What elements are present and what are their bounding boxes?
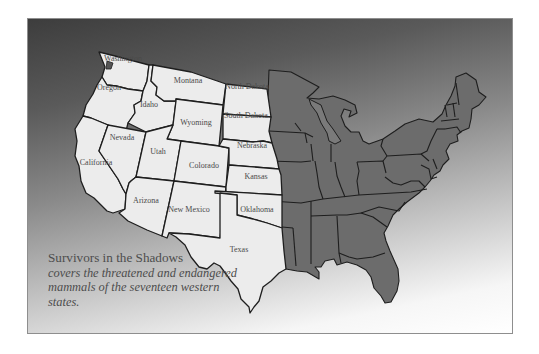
label-new-mexico: New Mexico — [168, 205, 210, 214]
label-colorado: Colorado — [189, 161, 219, 170]
label-idaho: Idaho — [140, 100, 158, 109]
label-washington: Washington — [104, 54, 142, 63]
label-oregon: Oregon — [97, 83, 121, 92]
map-caption: Survivors in the Shadows covers the thre… — [48, 251, 248, 309]
label-oklahoma: Oklahoma — [240, 205, 274, 214]
label-kansas: Kansas — [244, 172, 267, 181]
map-frame: Washington Oregon California Idaho Nevad… — [27, 18, 513, 334]
caption-body: covers the threatened and endangered mam… — [48, 266, 248, 310]
label-utah: Utah — [150, 147, 166, 156]
label-california: California — [80, 158, 113, 167]
label-nevada: Nevada — [110, 133, 135, 142]
label-wyoming: Wyoming — [180, 118, 212, 127]
label-nebraska: Nebraska — [237, 141, 268, 150]
label-north-dakota: North Dakota — [225, 82, 269, 91]
label-arizona: Arizona — [133, 196, 159, 205]
label-south-dakota: South Dakota — [224, 111, 268, 120]
state-montana[interactable] — [151, 65, 226, 105]
caption-title: Survivors in the Shadows — [48, 251, 248, 266]
label-montana: Montana — [174, 76, 203, 85]
